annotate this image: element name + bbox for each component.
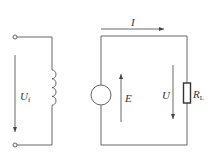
inductor-coil-icon [52, 70, 56, 105]
voltage-label-uf: Uf [20, 90, 31, 104]
load-resistor-icon [184, 83, 191, 103]
emf-label: E [124, 92, 132, 104]
load-voltage-label: U [162, 89, 171, 101]
resistor-label: RL [192, 88, 204, 102]
excitation-circuit: Uf [13, 35, 56, 147]
voltage-source-icon [91, 85, 111, 105]
load-circuit: I E U RL [91, 16, 204, 145]
circuit-diagram: Uf I E U RL [0, 0, 212, 161]
terminal-top [13, 35, 17, 39]
current-label: I [130, 16, 136, 28]
terminal-bottom [13, 143, 17, 147]
